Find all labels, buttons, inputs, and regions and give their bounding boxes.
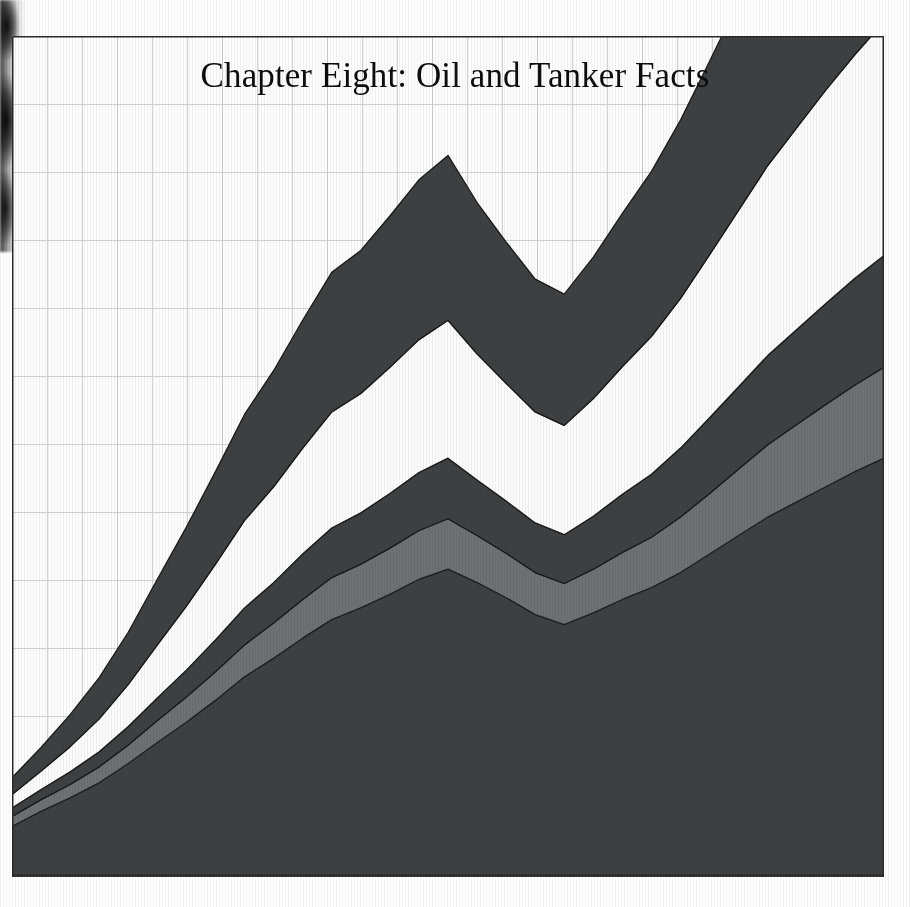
chart-plot-area: [12, 36, 884, 877]
page-canvas: Chapter Eight: Oil and Tanker Facts: [0, 0, 910, 907]
stacked-area-chart: [12, 36, 884, 877]
